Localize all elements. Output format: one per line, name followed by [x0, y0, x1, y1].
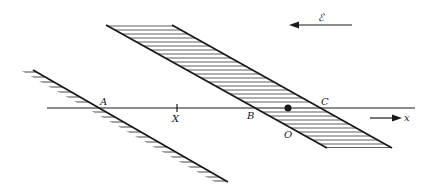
- label-x-point: X: [171, 113, 180, 124]
- half-space-boundary: [33, 70, 228, 182]
- slab-left-boundary: [106, 25, 327, 148]
- label-x-axis: x: [404, 112, 410, 123]
- label-c: C: [321, 96, 329, 107]
- half-space-hatching: [10, 72, 240, 181]
- label-field: ℰ: [318, 12, 325, 23]
- label-b: B: [246, 110, 254, 121]
- x-direction-arrow-icon: [370, 115, 402, 122]
- charge-dot: [285, 105, 292, 112]
- label-a: A: [99, 96, 107, 107]
- diagram-canvas: A X B C O ℰ x: [0, 0, 430, 189]
- label-o: O: [284, 129, 292, 140]
- slab-right-boundary: [172, 25, 392, 148]
- slab-hatching: [100, 26, 400, 148]
